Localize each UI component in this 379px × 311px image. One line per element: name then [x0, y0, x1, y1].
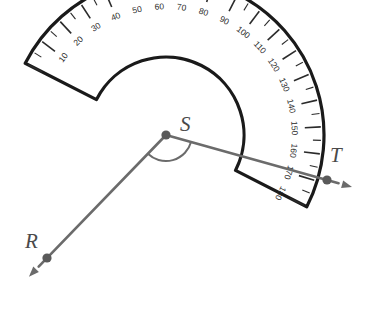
point-dot-S[interactable]: [161, 130, 170, 139]
ray-ST-arrowhead: [341, 180, 352, 187]
point-label-R: R: [24, 229, 38, 253]
tick-label-160: 160: [288, 143, 300, 159]
tick-label-70: 70: [176, 2, 187, 13]
tick-label-60: 60: [154, 1, 164, 11]
point-dot-R[interactable]: [42, 253, 51, 262]
tick-label-150: 150: [289, 121, 300, 136]
ray-SR-arrowhead: [29, 267, 39, 277]
angle-arc-RST: [148, 142, 191, 161]
protractor-canvas: 1020304050607080901001101201301401501601…: [0, 0, 379, 311]
ray-SR-line: [39, 135, 166, 267]
point-dot-T[interactable]: [322, 175, 331, 184]
tick-major: [305, 127, 321, 128]
point-label-S: S: [180, 112, 191, 136]
point-label-T: T: [330, 143, 343, 167]
protractor-figure: 1020304050607080901001101201301401501601…: [0, 0, 379, 311]
